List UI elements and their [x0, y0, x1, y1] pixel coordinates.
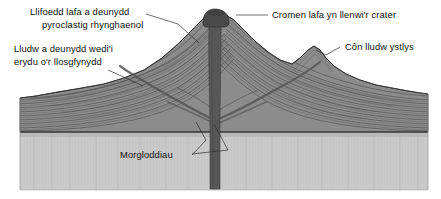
label-interbedded-lava-line1: Llifoedd lafa a deunydd	[30, 6, 129, 17]
basement-rock-block	[20, 132, 428, 190]
label-eroded-ash-line1: Lludw a deunydd wedi'i	[14, 43, 113, 54]
label-interbedded-lava: Llifoedd lafa a deunydd pyroclastig rhyn…	[30, 6, 143, 30]
label-lava-dome-line1: Cromen lafa yn llenwi'r crater	[272, 9, 396, 20]
label-flank-cone: Côn lludw ystlys	[345, 41, 414, 52]
label-interbedded-lava-line2: pyroclastig rhynghaenol	[42, 19, 143, 30]
label-flank-cone-line1: Côn lludw ystlys	[345, 41, 414, 52]
volcano-block-diagram: Llifoedd lafa a deunydd pyroclastig rhyn…	[0, 0, 441, 199]
label-dikes: Morgloddiau	[120, 149, 173, 160]
label-dikes-line1: Morgloddiau	[120, 149, 173, 160]
summit-lava-dome	[203, 9, 229, 27]
figure-canvas: Llifoedd lafa a deunydd pyroclastig rhyn…	[0, 0, 441, 199]
label-lava-dome: Cromen lafa yn llenwi'r crater	[272, 9, 396, 20]
label-eroded-ash: Lludw a deunydd wedi'i erydu o'r llosgfy…	[14, 43, 113, 67]
label-eroded-ash-line2: erydu o'r llosgfynydd	[14, 56, 102, 67]
central-conduit	[209, 26, 221, 189]
